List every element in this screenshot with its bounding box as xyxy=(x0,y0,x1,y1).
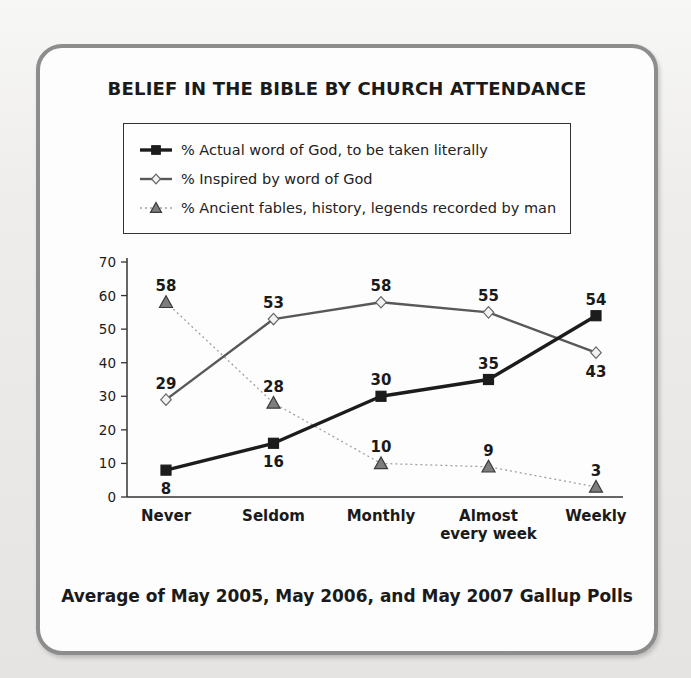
y-tick-label: 10 xyxy=(99,455,116,471)
data-point-label: 58 xyxy=(156,277,177,295)
data-point-marker xyxy=(150,202,161,212)
data-point-marker xyxy=(376,297,386,308)
data-point-marker xyxy=(483,307,493,318)
page-background: BELIEF IN THE BIBLE BY CHURCH ATTENDANCE… xyxy=(0,0,691,678)
data-point-marker xyxy=(375,457,388,469)
legend-item: % Inspired by word of God xyxy=(138,164,556,193)
data-point-label: 16 xyxy=(263,453,284,471)
data-point-marker xyxy=(269,438,279,448)
data-point-label: 54 xyxy=(586,291,607,309)
data-point-label: 58 xyxy=(371,277,392,295)
data-point-marker xyxy=(591,311,601,321)
filled-triangle-marker-icon xyxy=(138,201,174,215)
data-point-marker xyxy=(151,174,160,184)
open-diamond-marker-icon xyxy=(138,172,174,186)
x-category-label: Weekly xyxy=(565,507,626,525)
x-category-label: Almost xyxy=(459,507,518,525)
data-point-label: 55 xyxy=(478,287,499,305)
data-point-label: 43 xyxy=(586,363,607,381)
x-category-label: Monthly xyxy=(347,507,416,525)
data-point-label: 53 xyxy=(263,294,284,312)
legend-label: % Ancient fables, history, legends recor… xyxy=(181,200,556,216)
data-point-label: 29 xyxy=(156,375,177,393)
data-point-marker xyxy=(482,460,495,472)
data-point-label: 3 xyxy=(591,462,601,480)
chart-panel: BELIEF IN THE BIBLE BY CHURCH ATTENDANCE… xyxy=(36,44,658,655)
data-point-label: 28 xyxy=(263,378,284,396)
data-point-label: 35 xyxy=(478,355,499,373)
legend-box: % Actual word of God, to be taken litera… xyxy=(123,123,571,234)
x-category-label: Seldom xyxy=(242,507,305,525)
data-point-marker xyxy=(591,347,601,358)
y-tick-label: 0 xyxy=(107,489,116,505)
data-point-label: 10 xyxy=(371,438,392,456)
data-point-marker xyxy=(161,465,171,475)
chart-svg: 010203040506070NeverSeldomMonthlyAlmoste… xyxy=(47,246,647,552)
legend-item: % Actual word of God, to be taken litera… xyxy=(138,135,556,164)
chart-title: BELIEF IN THE BIBLE BY CHURCH ATTENDANCE xyxy=(108,78,587,99)
data-point-label: 8 xyxy=(161,480,171,498)
legend-label: % Inspired by word of God xyxy=(181,171,373,187)
data-point-marker xyxy=(152,145,161,154)
data-point-marker xyxy=(484,375,494,385)
x-category-label: every week xyxy=(440,525,538,543)
filled-square-marker-icon xyxy=(138,143,174,157)
y-tick-label: 70 xyxy=(99,254,116,270)
data-point-marker xyxy=(590,480,603,492)
data-point-marker xyxy=(376,391,386,401)
y-tick-label: 60 xyxy=(99,288,116,304)
y-tick-label: 40 xyxy=(99,355,116,371)
legend-label: % Actual word of God, to be taken litera… xyxy=(181,142,488,158)
y-tick-label: 30 xyxy=(99,388,116,404)
legend-item: % Ancient fables, history, legends recor… xyxy=(138,193,556,222)
y-tick-label: 20 xyxy=(99,422,116,438)
data-point-label: 9 xyxy=(483,442,493,460)
source-caption: Average of May 2005, May 2006, and May 2… xyxy=(61,586,633,606)
x-category-label: Never xyxy=(141,507,192,525)
y-tick-label: 50 xyxy=(99,321,116,337)
data-point-marker xyxy=(160,296,173,308)
data-point-label: 30 xyxy=(371,371,392,389)
